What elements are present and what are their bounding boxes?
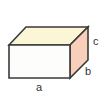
prism-svg xyxy=(0,0,107,98)
dimension-label-b: b xyxy=(85,66,91,77)
dimension-label-c: c xyxy=(93,36,99,47)
front-face xyxy=(9,45,70,78)
dimension-label-a: a xyxy=(36,82,42,93)
rectangular-prism-figure: a b c xyxy=(0,0,107,98)
